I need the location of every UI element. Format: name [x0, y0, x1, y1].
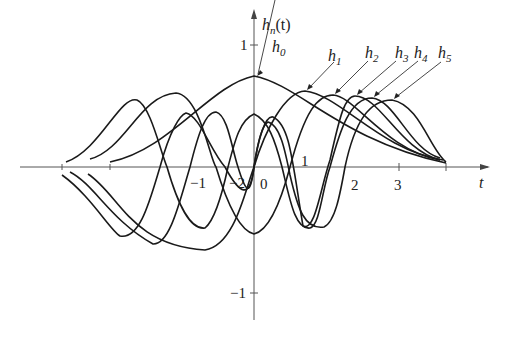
arrowhead-icon [374, 91, 380, 97]
curve-h2 [90, 93, 440, 234]
x-tick-label: −1 [190, 175, 206, 191]
arrow-h1 [309, 62, 334, 88]
arrow-h3 [359, 61, 396, 93]
y-tick-label: −1 [230, 285, 246, 301]
arrow-h4 [376, 61, 418, 95]
tick-labels: −2 −1 0 1 2 3 1 −1 [190, 37, 402, 301]
arrowhead-icon [394, 93, 400, 99]
label-h5: h5 [438, 44, 452, 64]
label-h1: h1 [328, 47, 342, 67]
x-axis-arrow-icon [480, 164, 490, 170]
y-axis-arrow-icon [251, 9, 257, 19]
x-axis-label: t [479, 174, 484, 191]
hermite-functions-chart: −2 −1 0 1 2 3 1 −1 t hn(t) [0, 0, 509, 337]
x-tick-label: 3 [394, 177, 402, 193]
series-labels: h0 h1 h2 h3 h4 h5 [272, 38, 452, 67]
x-tick-label: 1 [301, 153, 309, 169]
arrow-h5 [396, 62, 441, 97]
x-tick-label: 2 [351, 177, 359, 193]
label-h4: h4 [414, 44, 428, 64]
label-h0: h0 [272, 38, 286, 58]
label-h3: h3 [395, 44, 409, 64]
label-h2: h2 [365, 44, 379, 64]
x-tick-label: 0 [260, 176, 268, 192]
y-tick-label: 1 [240, 37, 248, 53]
curve-h3 [62, 96, 440, 236]
y-axis-label: hn(t) [262, 16, 291, 36]
arrow-h0 [258, 0, 275, 74]
arrow-h2 [337, 61, 368, 92]
